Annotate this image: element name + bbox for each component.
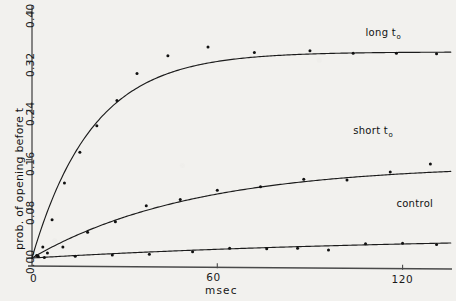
data-point bbox=[111, 253, 114, 256]
y-axis-title: prob. of opening before t bbox=[13, 108, 26, 250]
chart-plot-area bbox=[0, 0, 456, 301]
x-tick-label: 60 bbox=[206, 271, 220, 283]
data-point bbox=[136, 72, 139, 75]
data-point bbox=[63, 181, 66, 184]
data-point bbox=[46, 252, 49, 255]
fitted-curves bbox=[32, 52, 451, 258]
data-point bbox=[352, 52, 355, 55]
curve-short-t-o bbox=[32, 171, 451, 258]
data-point bbox=[327, 249, 330, 252]
data-point bbox=[216, 189, 219, 192]
x-tick-label: 120 bbox=[392, 273, 414, 285]
data-point bbox=[401, 242, 404, 245]
curve-annotation-text: control bbox=[396, 198, 433, 209]
data-point bbox=[179, 198, 182, 201]
data-point bbox=[145, 204, 148, 207]
data-point bbox=[207, 46, 210, 49]
data-point bbox=[166, 54, 169, 57]
curve-annotation: long to bbox=[366, 27, 402, 41]
data-point bbox=[191, 250, 194, 253]
curve-annotation-subscript: o bbox=[388, 131, 393, 139]
curve-control bbox=[32, 243, 451, 258]
y-tick-label: 0.00 bbox=[24, 249, 36, 274]
data-point bbox=[86, 231, 89, 234]
origin-zero-label: 0 bbox=[30, 272, 37, 284]
figure-canvas: 0.000.080.160.240.320.40 prob. of openin… bbox=[0, 0, 456, 301]
y-tick-label: 0.40 bbox=[24, 3, 36, 28]
data-point bbox=[51, 218, 54, 221]
data-point bbox=[302, 178, 305, 181]
data-point bbox=[296, 247, 299, 250]
data-point bbox=[395, 52, 398, 55]
data-point bbox=[95, 124, 98, 127]
data-point bbox=[61, 245, 64, 248]
data-point bbox=[37, 255, 40, 258]
data-point bbox=[228, 247, 231, 250]
data-point bbox=[115, 99, 118, 102]
data-point bbox=[253, 51, 256, 54]
data-point bbox=[435, 52, 438, 55]
curve-annotation: short to bbox=[353, 125, 393, 139]
data-point bbox=[429, 162, 432, 165]
y-tick-label: 0.32 bbox=[24, 53, 36, 78]
data-point bbox=[265, 247, 268, 250]
data-point bbox=[364, 242, 367, 245]
curve-annotation-subscript: o bbox=[396, 33, 401, 41]
data-point bbox=[114, 220, 117, 223]
data-point bbox=[41, 245, 44, 248]
data-point bbox=[78, 151, 81, 154]
data-point bbox=[74, 255, 77, 258]
data-point bbox=[43, 256, 46, 259]
x-axis-line bbox=[28, 266, 452, 269]
data-point bbox=[435, 243, 438, 246]
data-point bbox=[308, 49, 311, 52]
data-point bbox=[389, 170, 392, 173]
curve-annotation: control bbox=[396, 198, 433, 209]
data-point bbox=[259, 185, 262, 188]
curve-annotation-text: long t bbox=[366, 27, 396, 38]
data-point bbox=[148, 253, 151, 256]
curve-annotation-text: short t bbox=[353, 125, 388, 136]
data-point bbox=[346, 178, 349, 181]
x-axis-title: msec bbox=[205, 284, 238, 296]
